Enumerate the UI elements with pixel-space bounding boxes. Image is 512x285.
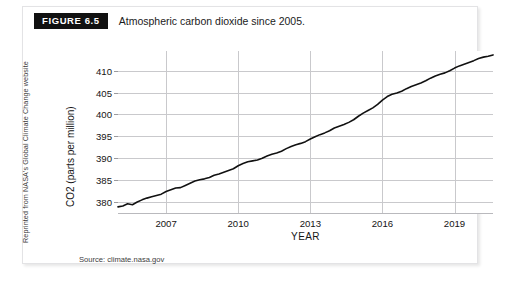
y-tick-label: 410 xyxy=(96,65,112,76)
source-note: Source: climate.nasa.gov xyxy=(79,255,164,264)
figure-number-badge: FIGURE 6.5 xyxy=(34,13,108,29)
y-tick-label: 385 xyxy=(96,175,112,186)
x-tick-label: 2010 xyxy=(228,218,249,229)
x-tick-label: 2013 xyxy=(300,218,321,229)
x-tick-label: 2016 xyxy=(372,218,393,229)
y-axis-tick-labels: 380385390395400405410 xyxy=(78,51,112,213)
x-tick-label: 2007 xyxy=(155,218,176,229)
figure-caption: Atmospheric carbon dioxide since 2005. xyxy=(119,15,305,27)
co2-trend-line xyxy=(118,55,493,207)
y-tick-label: 380 xyxy=(96,197,112,208)
y-tick-label: 400 xyxy=(96,109,112,120)
x-tick-label: 2019 xyxy=(444,218,465,229)
y-tick-label: 405 xyxy=(96,87,112,98)
figure-screenshot: FIGURE 6.5 Atmospheric carbon dioxide si… xyxy=(0,0,512,285)
x-axis-title: YEAR xyxy=(118,231,493,242)
y-tick-label: 395 xyxy=(96,131,112,142)
plot-area xyxy=(118,51,493,213)
y-tick-label: 390 xyxy=(96,153,112,164)
figure-frame: FIGURE 6.5 Atmospheric carbon dioxide si… xyxy=(22,6,478,264)
reprint-credit: Reprinted from NASA's Global Climate Cha… xyxy=(21,61,30,243)
y-axis-title: CO2 (parts per million) xyxy=(65,106,76,207)
co2-line-series xyxy=(118,51,493,213)
figure-title-row: FIGURE 6.5 Atmospheric carbon dioxide si… xyxy=(34,13,305,29)
x-axis-line xyxy=(118,213,493,214)
